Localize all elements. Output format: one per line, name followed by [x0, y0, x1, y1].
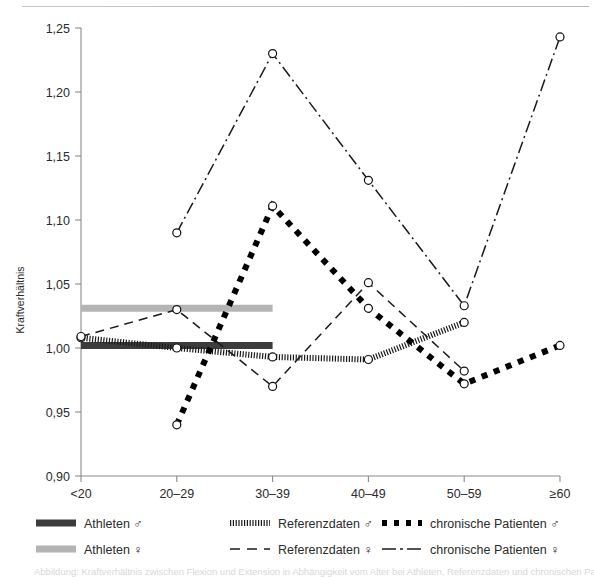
y-tick-label: 1,25 — [46, 22, 70, 36]
legend-entry-athleten_m: Athleten ♂ — [36, 517, 143, 531]
legend-entry-referenz_w: Referenzdaten ♀ — [230, 543, 373, 557]
x-tick-label: ≥60 — [550, 487, 571, 501]
legend-entry-referenz_m: Referenzdaten ♂ — [230, 517, 373, 531]
data-point-marker — [460, 302, 468, 310]
x-tick-label: 50–59 — [447, 487, 482, 501]
y-axis-title: Kraftverhältnis — [14, 266, 26, 333]
figure-caption: Abbildung: Kraftverhältnis zwischen Flex… — [34, 566, 594, 577]
data-point-marker — [364, 304, 372, 312]
legend-entry-chronisch_m: chronische Patienten ♂ — [382, 517, 560, 531]
y-tick-label: 1,20 — [46, 86, 70, 100]
data-point-marker — [460, 380, 468, 388]
series-line-referenz_w — [81, 283, 464, 387]
series-layer — [77, 33, 564, 429]
x-tick-label: 30–39 — [255, 487, 290, 501]
x-tick-group: <2020–2930–3940–4950–59≥60 — [70, 476, 570, 501]
data-point-marker — [173, 344, 181, 352]
x-tick-label: 20–29 — [159, 487, 194, 501]
data-point-marker — [269, 382, 277, 390]
data-point-marker — [364, 176, 372, 184]
data-point-marker — [269, 353, 277, 361]
legend-entry-chronisch_w: chronische Patienten ♀ — [382, 543, 560, 557]
legend-label-referenz_m: Referenzdaten ♂ — [278, 517, 373, 531]
series-line-chronisch_m — [177, 206, 560, 425]
legend-entry-athleten_w: Athleten ♀ — [36, 543, 143, 557]
x-tick-label: <20 — [70, 487, 91, 501]
data-point-marker — [77, 332, 85, 340]
y-tick-label: 1,15 — [46, 150, 70, 164]
x-tick-label: 40–49 — [351, 487, 386, 501]
data-point-marker — [269, 202, 277, 210]
y-tick-label: 1,05 — [46, 278, 70, 292]
data-point-marker — [173, 229, 181, 237]
data-point-marker — [364, 279, 372, 287]
data-point-marker — [173, 421, 181, 429]
data-point-marker — [460, 318, 468, 326]
data-point-marker — [173, 306, 181, 314]
top-divider-rule — [22, 6, 589, 7]
legend-label-athleten_w: Athleten ♀ — [84, 543, 143, 557]
data-point-marker — [556, 33, 564, 41]
series-chronisch_m — [173, 202, 564, 429]
y-tick-label: 1,10 — [46, 214, 70, 228]
series-chronisch_w — [173, 33, 564, 310]
chart-legend: Athleten ♂Referenzdaten ♂chronische Pati… — [36, 517, 560, 557]
data-point-marker — [460, 367, 468, 375]
legend-label-referenz_w: Referenzdaten ♀ — [278, 543, 373, 557]
legend-label-chronisch_w: chronische Patienten ♀ — [430, 543, 560, 557]
data-point-marker — [364, 356, 372, 364]
y-tick-group: 0,900,951,001,051,101,151,201,25 — [46, 22, 81, 484]
y-tick-label: 1,00 — [46, 342, 70, 356]
series-line-chronisch_w — [177, 37, 560, 306]
y-tick-label: 0,95 — [46, 406, 70, 420]
data-point-marker — [556, 341, 564, 349]
y-tick-label: 0,90 — [46, 470, 70, 484]
series-referenz_w — [77, 279, 468, 391]
data-point-marker — [269, 50, 277, 58]
axes — [81, 28, 560, 476]
legend-label-athleten_m: Athleten ♂ — [84, 517, 143, 531]
legend-label-chronisch_m: chronische Patienten ♂ — [430, 517, 560, 531]
